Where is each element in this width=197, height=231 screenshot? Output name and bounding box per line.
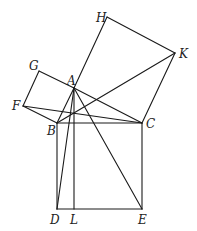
segment-hk: [107, 17, 175, 53]
label-k: K: [178, 47, 189, 61]
segment-gf: [23, 71, 39, 106]
labels-group: A B C D L E F G H K: [11, 11, 189, 227]
segment-ah: [74, 17, 107, 88]
label-a: A: [66, 74, 76, 88]
label-h: H: [95, 11, 107, 25]
label-g: G: [29, 59, 39, 73]
segment-kc: [142, 53, 175, 123]
label-e: E: [137, 213, 147, 227]
label-f: F: [11, 99, 21, 113]
label-c: C: [146, 117, 155, 131]
pythagorean-diagram: A B C D L E F G H K: [0, 0, 197, 231]
label-l: L: [69, 213, 78, 227]
segment-ae: [74, 88, 142, 209]
segments-group: [23, 17, 175, 209]
label-b: B: [46, 124, 56, 138]
label-d: D: [49, 213, 60, 227]
